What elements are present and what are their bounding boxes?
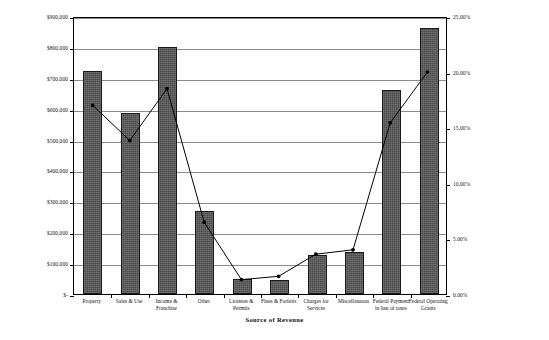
y-axis-label-left: $700,000 (24, 76, 68, 82)
x-label-sales-use: Sales & Use (108, 298, 150, 305)
percent-point (128, 139, 132, 143)
percent-line-path (93, 72, 428, 279)
revenue-chart: $900,000 $800,000 $700,000 $600,000 $500… (0, 0, 549, 340)
y-axis-label-right: 15.00% (453, 125, 470, 131)
y-axis-tick-right (446, 129, 450, 130)
percent-point (314, 252, 318, 256)
x-label-licenses-permits: Licenses & Permits (221, 298, 263, 313)
y-axis-label-left: $- (24, 292, 68, 298)
y-axis-label-left: $400,000 (24, 168, 68, 174)
x-axis-title: Source of Revenue (0, 316, 549, 323)
y-axis-tick-right (446, 240, 450, 241)
y-axis-tick-left (70, 296, 74, 297)
y-axis-tick-right (446, 18, 450, 19)
x-label-federal-operating-grants: Federal Operating Grants (408, 298, 450, 313)
x-label-fines-forfeits: Fines & Forfeits (258, 298, 300, 305)
y-axis-tick-right (446, 296, 450, 297)
x-label-income-franchise: Income & Franchise (146, 298, 188, 313)
y-axis-label-left: $600,000 (24, 107, 68, 113)
y-axis-tick-right (446, 74, 450, 75)
percent-point (202, 220, 206, 224)
percent-point (240, 278, 244, 282)
y-axis-label-left: $100,000 (24, 261, 68, 267)
x-axis-labels: Property Sales & Use Income & Franchise … (73, 298, 447, 328)
y-axis-label-left: $800,000 (24, 45, 68, 51)
y-axis-tick-right (446, 185, 450, 186)
percent-of-revenue-line (74, 18, 446, 294)
y-axis-label-left: $200,000 (24, 230, 68, 236)
x-label-federal-payment-lieu-taxes: Federal Payment in lieu of taxes (370, 298, 412, 313)
percent-point (277, 274, 281, 278)
x-label-property: Property (71, 298, 113, 305)
plot-area (73, 17, 447, 295)
y-axis-label-left: $500,000 (24, 138, 68, 144)
percent-point (165, 87, 169, 91)
percent-point (351, 248, 355, 252)
percent-point (388, 121, 392, 125)
y-axis-label-right: 10.00% (453, 181, 470, 187)
y-axis-label-right: 5.00% (453, 236, 467, 242)
x-label-charges-for-services: Charges for Services (295, 298, 337, 313)
y-axis-label-left: $900,000 (24, 14, 68, 20)
x-label-other: Other (183, 298, 225, 305)
y-axis-label-left: $300,000 (24, 199, 68, 205)
y-axis-label-right: 0.00% (453, 292, 467, 298)
y-axis-label-right: 20.00% (453, 70, 470, 76)
percent-point (426, 70, 430, 74)
percent-point (91, 103, 95, 107)
x-label-miscellaneous: Miscellaneous (333, 298, 375, 305)
y-axis-label-right: 25.00% (453, 14, 470, 20)
